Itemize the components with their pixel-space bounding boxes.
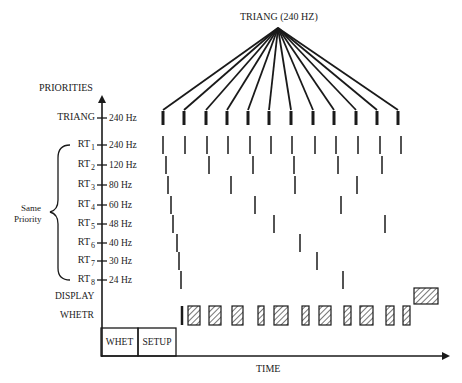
rt2-frequency: 120 Hz (109, 160, 137, 170)
brace-label-priority: Priority (14, 214, 42, 224)
whet-box-label: WHET (101, 337, 138, 347)
rt4-subscript: 4 (91, 203, 95, 212)
whetr-block (403, 306, 410, 325)
row-ticks (163, 111, 401, 289)
fan-line (278, 28, 377, 110)
rt1-frequency: 240 Hz (109, 140, 137, 150)
rt8-subscript: 8 (91, 278, 95, 287)
display-row-label: DISPLAY (55, 291, 94, 301)
diagram-title: TRIANG (240 HZ) (240, 12, 318, 22)
whetr-block (302, 306, 309, 325)
fan-line (206, 28, 278, 110)
display-row-block (414, 288, 438, 304)
rt6-frequency: 40 Hz (109, 238, 132, 248)
x-axis-label: TIME (256, 364, 280, 374)
display-block (414, 288, 438, 304)
whetr-row-label: WHETR (60, 310, 94, 320)
same-priority-brace (50, 145, 70, 280)
rt4-frequency: 60 Hz (109, 200, 132, 210)
rt8-label: RT8 (78, 274, 95, 285)
rt4-label: RT4 (78, 199, 95, 210)
rt5-subscript: 5 (91, 222, 95, 231)
rt3-label: RT3 (78, 179, 95, 190)
fan-line (278, 28, 334, 110)
whetr-block (386, 306, 394, 325)
timing-diagram (0, 0, 462, 383)
rt7-label: RT7 (78, 255, 95, 266)
rt8-frequency: 24 Hz (109, 275, 132, 285)
y-axis-label: PRIORITIES (39, 83, 93, 93)
whetr-block (319, 306, 331, 325)
whetr-block (258, 306, 264, 325)
rt6-subscript: 6 (91, 241, 95, 250)
whetr-block (344, 306, 351, 325)
rt1-label: RT1 (78, 139, 95, 150)
whetr-block (188, 306, 200, 325)
rt5-frequency: 48 Hz (109, 219, 132, 229)
brace-label-same: Same (21, 203, 41, 213)
rt1-subscript: 1 (91, 143, 95, 152)
triang-fan-lines (163, 28, 398, 110)
rt2-label: RT2 (78, 159, 95, 170)
rt2-subscript: 2 (91, 163, 95, 172)
setup-box-label: SETUP (138, 337, 176, 347)
rt7-frequency: 30 Hz (109, 256, 132, 266)
rt3-frequency: 80 Hz (109, 180, 132, 190)
fan-line (163, 28, 278, 110)
rt5-label: RT5 (78, 218, 95, 229)
whetr-block (274, 306, 288, 325)
whetr-block (232, 306, 243, 325)
whetr-block (360, 306, 373, 325)
rt3-subscript: 3 (91, 183, 95, 192)
rt6-label: RT6 (78, 237, 95, 248)
whetr-block (209, 306, 221, 325)
triang-label: TRIANG (57, 112, 95, 122)
triang-frequency: 240 Hz (109, 113, 137, 123)
whetr-row-blocks (182, 306, 410, 325)
rt7-subscript: 7 (91, 259, 95, 268)
